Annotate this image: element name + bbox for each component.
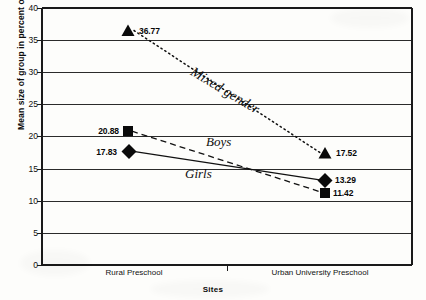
value-label-mixed-urban: 17.52 bbox=[336, 148, 357, 158]
marker-square-rural bbox=[123, 126, 133, 136]
x-tick-rural-preschool: Rural Preschool bbox=[106, 268, 163, 277]
value-label-girls-rural: 17.83 bbox=[96, 147, 117, 157]
value-label-girls-urban: 13.29 bbox=[335, 175, 356, 185]
scan-artifact bbox=[20, 250, 90, 276]
series-line-girls bbox=[130, 151, 323, 181]
x-tick-urban-university-preschool: Urban University Preschool bbox=[272, 268, 369, 277]
line-chart: Mean size of group in percent of class 4… bbox=[0, 0, 426, 300]
scan-artifact bbox=[150, 280, 270, 298]
value-label-boys-urban: 11.42 bbox=[333, 188, 353, 198]
marker-diamond-rural bbox=[122, 144, 137, 159]
series-label-boys: Boys bbox=[206, 134, 231, 150]
marker-diamond-urban bbox=[318, 173, 333, 188]
marker-triangle-urban bbox=[319, 147, 332, 159]
scan-artifact bbox=[330, 8, 410, 28]
value-label-mixed-rural: 36.77 bbox=[139, 26, 160, 36]
marker-square-urban bbox=[320, 188, 330, 198]
value-label-boys-rural: 20.88 bbox=[98, 126, 119, 136]
marker-triangle-rural bbox=[122, 25, 135, 37]
series-label-girls: Girls bbox=[185, 166, 212, 182]
